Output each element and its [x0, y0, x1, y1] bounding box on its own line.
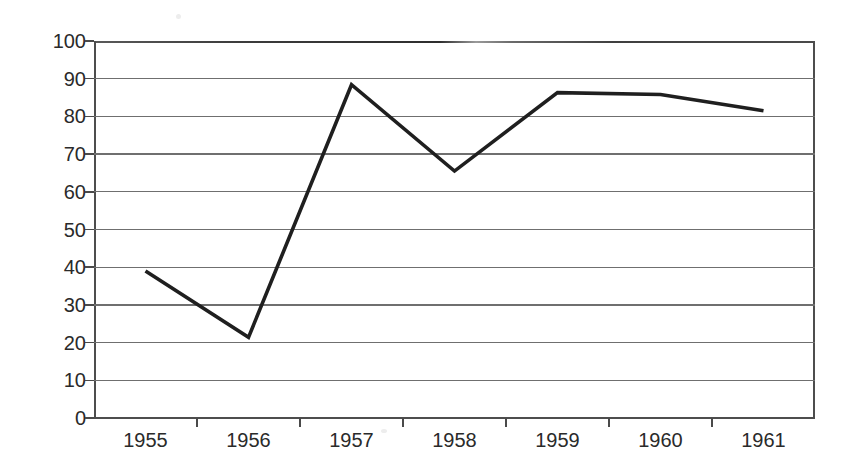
plot-area	[94, 41, 815, 418]
x-axis-tick	[505, 418, 507, 427]
y-axis-tick	[85, 380, 94, 382]
x-axis-tick-label: 1961	[741, 430, 786, 450]
y-axis-tick	[85, 78, 94, 80]
x-axis-tick	[711, 418, 713, 427]
y-axis-tick	[85, 229, 94, 231]
y-axis-tick	[85, 417, 94, 419]
y-axis-tick	[85, 304, 94, 306]
x-axis-tick-label: 1955	[123, 430, 168, 450]
y-axis-tick-label: 20	[42, 333, 86, 353]
y-axis-tick	[85, 40, 94, 42]
scan-artifact	[176, 14, 181, 19]
y-axis-tick	[85, 116, 94, 118]
y-axis-tick-label: 100	[42, 31, 86, 51]
x-axis-tick	[299, 418, 301, 427]
y-axis-tick-label: 90	[42, 69, 86, 89]
x-axis-tick-labels: 1955195619571958195919601961	[94, 430, 815, 460]
data-series-svg	[94, 41, 815, 418]
x-axis-tick	[196, 418, 198, 427]
y-axis-tick	[85, 342, 94, 344]
y-axis-tick-labels: 0102030405060708090100	[36, 0, 86, 474]
y-axis-tick	[85, 191, 94, 193]
x-axis-tick-label: 1956	[226, 430, 271, 450]
y-axis-tick-label: 50	[42, 220, 86, 240]
y-axis-tick	[85, 153, 94, 155]
y-axis-tick	[85, 266, 94, 268]
y-axis-tick-label: 30	[42, 295, 86, 315]
y-axis-tick-label: 70	[42, 144, 86, 164]
y-axis-tick-label: 0	[42, 408, 86, 428]
y-axis-tick-label: 80	[42, 106, 86, 126]
line-chart: Share (%) 0102030405060708090100 1955195…	[0, 0, 845, 474]
data-series-line	[146, 85, 764, 338]
x-axis-tick	[608, 418, 610, 427]
y-axis-tick-label: 60	[42, 182, 86, 202]
x-axis-tick-label: 1960	[638, 430, 683, 450]
x-axis-tick-label: 1958	[432, 430, 477, 450]
y-axis-tick-label: 10	[42, 370, 86, 390]
y-axis-tick-label: 40	[42, 257, 86, 277]
x-axis-tick-label: 1957	[329, 430, 374, 450]
x-axis-tick	[402, 418, 404, 427]
x-axis-tick-label: 1959	[535, 430, 580, 450]
